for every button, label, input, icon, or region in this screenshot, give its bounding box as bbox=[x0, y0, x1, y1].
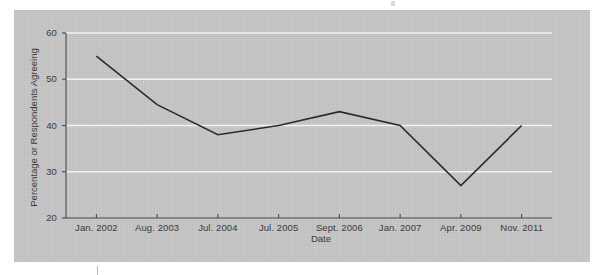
y-tick-label: 60 bbox=[35, 27, 57, 38]
x-tick-label: Jul. 2005 bbox=[244, 222, 314, 233]
y-tick-label: 30 bbox=[35, 166, 57, 177]
x-tick-label: Aug. 2003 bbox=[122, 222, 192, 233]
x-tick-label: Jan. 2002 bbox=[61, 222, 131, 233]
x-tick-label: Sept. 2006 bbox=[304, 222, 374, 233]
x-tick-label: Jan. 2007 bbox=[365, 222, 435, 233]
x-tick-label: Jul. 2004 bbox=[183, 222, 253, 233]
gridlines bbox=[66, 33, 552, 172]
x-tick-label: Nov. 2011 bbox=[487, 222, 557, 233]
y-tick-label: 40 bbox=[35, 120, 57, 131]
y-tick-label: 20 bbox=[35, 212, 57, 223]
data-series-line bbox=[96, 56, 521, 186]
x-axis-title: Date bbox=[281, 233, 361, 244]
scan-mark bbox=[97, 266, 98, 275]
chart-figure: Percentage or Respondents Agreeing 20304… bbox=[0, 0, 604, 275]
y-tick-label: 50 bbox=[35, 73, 57, 84]
x-tick-label: Apr. 2009 bbox=[426, 222, 496, 233]
